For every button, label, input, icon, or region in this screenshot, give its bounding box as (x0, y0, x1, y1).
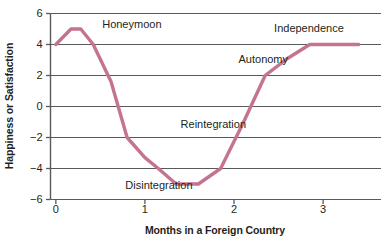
y-tick-label: −4 (23, 162, 43, 174)
y-tick-label: 4 (23, 38, 43, 50)
x-axis-title: Months in a Foreign Country (50, 224, 380, 236)
y-axis-title: Happiness or Satisfaction (2, 13, 16, 199)
x-tick-label: 0 (46, 203, 66, 215)
y-tick-label: 0 (23, 100, 43, 112)
y-tick-label: 6 (23, 7, 43, 19)
annotation-disintegration: Disintegration (125, 179, 192, 191)
x-tick-label: 2 (224, 203, 244, 215)
y-tick-label: 2 (23, 69, 43, 81)
x-tick-label: 1 (135, 203, 155, 215)
annotation-autonomy: Autonomy (239, 53, 289, 65)
x-tick-label: 3 (313, 203, 333, 215)
y-tick-label: −6 (23, 193, 43, 205)
y-tick-label: −2 (23, 131, 43, 143)
y-axis (46, 14, 51, 200)
annotation-reintegration: Reintegration (181, 118, 246, 130)
culture-shock-chart: Happiness or Satisfaction Months in a Fo… (0, 0, 389, 246)
annotation-independence: Independence (274, 22, 344, 34)
annotation-honeymoon: Honeymoon (102, 18, 161, 30)
x-axis-ticks (56, 200, 323, 205)
